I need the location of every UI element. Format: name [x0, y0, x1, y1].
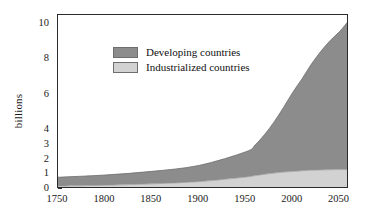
y-tick-label: 2 [25, 154, 49, 165]
chart-legend: Developing countries Industrialized coun… [113, 45, 250, 75]
x-tick-label: 1900 [178, 194, 218, 205]
y-tick-label: 3 [25, 139, 49, 150]
legend-label-industrialized: Industrialized countries [146, 61, 250, 73]
y-axis-title-text: billions [12, 93, 24, 128]
x-tick-label: 1950 [225, 194, 265, 205]
x-tick-label: 2050 [319, 194, 359, 205]
legend-item-industrialized: Industrialized countries [113, 60, 250, 74]
y-tick-label: 0 [25, 183, 49, 194]
y-tick-label: 6 [25, 89, 49, 100]
y-tick-label: 8 [25, 53, 49, 64]
x-tick-label: 2000 [272, 194, 312, 205]
x-tick-label: 1850 [131, 194, 171, 205]
y-tick-label: 4 [25, 124, 49, 135]
population-area-chart: billions 012346810 175018001850190019502… [0, 0, 368, 221]
plot-area [57, 14, 348, 188]
stacked-area-svg [58, 15, 348, 188]
legend-swatch-industrialized [113, 62, 138, 73]
y-tick-label: 10 [25, 18, 49, 29]
legend-item-developing: Developing countries [113, 45, 250, 59]
x-tick-label: 1750 [37, 194, 77, 205]
y-tick-label: 1 [25, 168, 49, 179]
legend-label-developing: Developing countries [146, 46, 240, 58]
legend-swatch-developing [113, 47, 138, 58]
x-tick-label: 1800 [84, 194, 124, 205]
